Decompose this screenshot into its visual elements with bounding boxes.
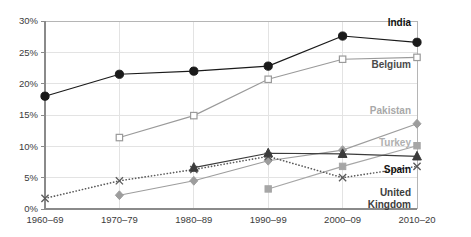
series-label-india: India — [388, 17, 412, 28]
series-label-spain: Spain — [384, 164, 411, 175]
series-label-pakistan: Pakistan — [370, 105, 411, 116]
x-tick-label-5: 2010–20 — [399, 214, 436, 225]
marker-square-filled — [265, 186, 271, 192]
x-tick-label-4: 2000–09 — [324, 214, 361, 225]
marker-circle — [413, 38, 421, 46]
series-label-turkey: Turkey — [379, 137, 411, 148]
marker-square-open — [191, 112, 197, 118]
chart-container: 0%5%10%15%20%25%30%1960–691970–791980–89… — [0, 0, 471, 237]
line-chart: 0%5%10%15%20%25%30%1960–691970–791980–89… — [0, 0, 471, 237]
y-tick-label-25: 25% — [19, 47, 39, 58]
x-tick-label-0: 1960–69 — [27, 214, 64, 225]
marker-diamond — [413, 119, 421, 128]
x-tick-label-2: 1980–89 — [175, 214, 212, 225]
marker-square-open — [414, 54, 420, 60]
series-label-united-kingdom: United — [380, 187, 411, 198]
marker-circle — [41, 92, 49, 100]
series-label-united-kingdom-line2: Kingdom — [368, 199, 411, 210]
marker-circle — [264, 62, 272, 70]
marker-square-open — [265, 76, 271, 82]
y-tick-label-20: 20% — [19, 78, 39, 89]
marker-square-open — [116, 134, 122, 140]
marker-triangle — [413, 151, 422, 160]
x-tick-label-1: 1970–79 — [101, 214, 138, 225]
marker-square-filled — [414, 143, 420, 149]
marker-square-open — [339, 56, 345, 62]
y-tick-label-10: 10% — [19, 141, 39, 152]
marker-circle — [190, 67, 198, 75]
y-tick-label-0: 0% — [24, 203, 38, 214]
x-tick-label-3: 1990–99 — [250, 214, 287, 225]
marker-square-filled — [339, 163, 345, 169]
y-tick-label-15: 15% — [19, 109, 39, 120]
marker-circle — [115, 70, 123, 78]
marker-circle — [339, 32, 347, 40]
y-tick-label-5: 5% — [24, 172, 38, 183]
series-label-belgium: Belgium — [372, 59, 412, 70]
y-tick-label-30: 30% — [19, 15, 39, 26]
marker-diamond — [115, 191, 123, 200]
series-india — [41, 32, 421, 100]
series-line-india — [45, 36, 417, 96]
